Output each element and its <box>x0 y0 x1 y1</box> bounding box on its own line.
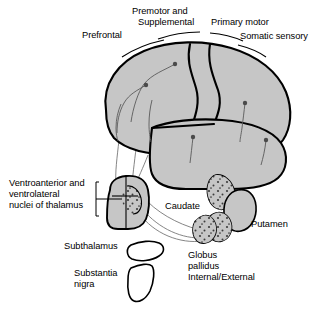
label-globus-line3: Internal/External <box>188 272 255 283</box>
label-subthalamus: Subthalamus <box>64 241 118 252</box>
neuron-dot-5 <box>264 138 268 142</box>
neuron-dot-1 <box>173 62 177 66</box>
neuron-dot-3 <box>243 101 247 105</box>
label-thalamus-line2: ventrolateral <box>9 189 60 200</box>
label-thalamus-line1: Ventroanterior and <box>9 178 85 189</box>
substantia-nigra-shape <box>128 264 154 301</box>
label-premotor-line1: Premotor and <box>132 6 188 17</box>
label-premotor-line2: Supplemental <box>138 17 194 28</box>
subthalamus-shape <box>127 241 163 260</box>
label-primary-motor: Primary motor <box>211 17 269 28</box>
label-putamen: Putamen <box>251 219 288 230</box>
label-substantia-line1: Substantia <box>74 268 117 279</box>
leader-arc-premotor <box>158 32 200 39</box>
neuron-dot-4 <box>191 135 195 139</box>
label-globus-line1: Globus <box>188 250 217 261</box>
label-substantia-line2: nigra <box>74 279 94 290</box>
label-globus-line2: pallidus <box>188 261 219 272</box>
neuron-dot-2 <box>144 83 148 87</box>
label-thalamus-line3: nuclei of thalamus <box>9 200 83 211</box>
label-somatic-sensory: Somatic sensory <box>240 31 308 42</box>
basal-ganglia-diagram <box>0 0 331 310</box>
label-caudate: Caudate <box>165 201 200 212</box>
leader-arc-primary-motor <box>210 33 243 41</box>
label-prefrontal: Prefrontal <box>82 30 122 41</box>
